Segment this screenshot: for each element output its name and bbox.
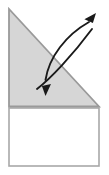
figure-container xyxy=(0,0,109,175)
rectangle-base xyxy=(9,108,99,166)
fold-diagram xyxy=(0,0,109,175)
